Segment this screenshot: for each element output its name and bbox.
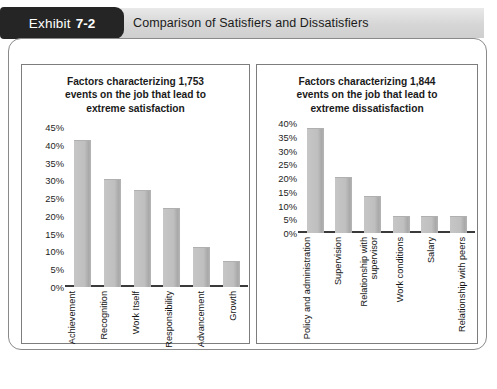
x-axis-category-label: Achievement	[67, 291, 77, 344]
bar	[393, 216, 410, 234]
y-axis-tick-label: 35%	[278, 131, 297, 142]
y-axis-tick-label: 25%	[278, 159, 297, 170]
chart-title-line: extreme dissatisfaction	[263, 102, 471, 115]
x-axis-category-label: Growth	[228, 291, 238, 321]
x-axis-category: Growth	[224, 289, 241, 375]
x-axis-labels-satisfiers: AchievementRecognitionWork ItselfRespons…	[56, 289, 249, 375]
bar	[335, 177, 352, 233]
bar-group-dissatisfiers	[301, 123, 473, 233]
y-axis-tick-label: 15%	[45, 228, 64, 239]
chart-title-line: extreme satisfaction	[28, 102, 243, 115]
x-axis-category: Policy and administration	[298, 235, 315, 365]
exhibit-header: Comparison of Satisfiers and Dissatisfie…	[21, 8, 484, 38]
bar-group-satisfiers	[68, 127, 246, 287]
chart-title-satisfiers: Factors characterizing 1,753events on th…	[28, 75, 243, 115]
x-axis-category: Work Itself	[128, 289, 145, 375]
x-axis-category: Salary	[422, 235, 439, 365]
exhibit-tab: Exhibit 7-2	[0, 7, 124, 39]
y-axis-dissatisfiers: 40%35%30%25%20%15%10%5%0%	[267, 123, 301, 233]
x-axis-category-label: Supervision	[333, 237, 343, 285]
exhibit-title: Comparison of Satisfiers and Dissatisfie…	[133, 8, 369, 38]
x-axis-category-label: Policy and administration	[302, 237, 312, 339]
bar	[104, 179, 121, 287]
y-axis-tick-label: 40%	[278, 118, 297, 129]
x-axis-category-label: Salary	[426, 237, 436, 263]
x-axis-category: Supervision	[329, 235, 346, 365]
y-axis-tick-label: 30%	[278, 145, 297, 156]
plot-area-satisfiers: 45%40%35%30%25%20%15%10%5%0%	[34, 127, 246, 287]
bar	[364, 196, 381, 233]
x-axis-category: Work conditions	[391, 235, 408, 365]
y-axis-tick-label: 45%	[45, 122, 64, 133]
exhibit-figure: Comparison of Satisfiers and Dissatisfie…	[0, 0, 497, 389]
x-axis-category-label: Work Itself	[131, 291, 141, 334]
bar	[163, 208, 180, 287]
bar	[223, 261, 240, 287]
chart-panel-dissatisfiers: Factors characterizing 1,844events on th…	[256, 64, 478, 344]
y-axis-satisfiers: 45%40%35%30%25%20%15%10%5%0%	[34, 127, 68, 287]
y-axis-tick-label: 5%	[50, 264, 64, 275]
x-axis-category-label: Work conditions	[395, 237, 405, 302]
y-axis-tick-label: 20%	[45, 210, 64, 221]
x-axis-category-label: Recognition	[99, 291, 109, 340]
x-axis-category-label: Advancement	[196, 291, 206, 347]
y-axis-tick-label: 30%	[45, 175, 64, 186]
x-axis-category-label: Relationship with supervisor	[358, 237, 379, 306]
x-axis-category-label: Relationship with peers	[457, 237, 467, 332]
x-axis-category: Relationship with peers	[453, 235, 470, 365]
chart-title-line: Factors characterizing 1,753	[28, 75, 243, 88]
bar	[421, 216, 438, 234]
bar	[450, 216, 467, 234]
bar	[134, 190, 151, 287]
plot-area-dissatisfiers: 40%35%30%25%20%15%10%5%0%	[267, 123, 473, 233]
exhibit-tab-number: 7-2	[76, 16, 96, 31]
x-axis-category: Advancement	[192, 289, 209, 375]
chart-panel-satisfiers: Factors characterizing 1,753events on th…	[21, 64, 250, 344]
y-axis-tick-label: 10%	[45, 246, 64, 257]
bar	[193, 247, 210, 287]
x-axis-category: Recognition	[96, 289, 113, 375]
y-axis-tick-label: 20%	[278, 173, 297, 184]
chart-title-line: Factors characterizing 1,844	[263, 75, 471, 88]
y-axis-tick-label: 40%	[45, 139, 64, 150]
y-axis-tick-label: 35%	[45, 157, 64, 168]
chart-title-line: events on the job that lead to	[28, 88, 243, 101]
x-axis-labels-dissatisfiers: Policy and administrationSupervisionRela…	[291, 235, 477, 365]
bar	[74, 140, 91, 287]
bar	[307, 128, 324, 234]
x-axis-category: Responsibility	[160, 289, 177, 375]
y-axis-tick-label: 5%	[283, 214, 297, 225]
x-axis-category: Relationship with supervisor	[360, 235, 377, 365]
y-axis-tick-label: 10%	[278, 200, 297, 211]
x-axis-category-label: Responsibility	[164, 291, 174, 348]
chart-title-line: events on the job that lead to	[263, 88, 471, 101]
y-axis-tick-label: 15%	[278, 186, 297, 197]
chart-title-dissatisfiers: Factors characterizing 1,844events on th…	[263, 75, 471, 115]
y-axis-tick-label: 25%	[45, 193, 64, 204]
exhibit-tab-label: Exhibit	[29, 16, 71, 31]
x-axis-category: Achievement	[64, 289, 81, 375]
